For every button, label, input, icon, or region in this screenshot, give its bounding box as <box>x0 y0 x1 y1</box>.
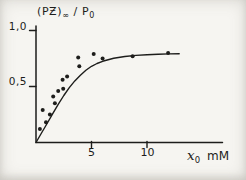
data-point <box>101 57 105 61</box>
axes <box>36 26 222 142</box>
data-point <box>44 120 48 124</box>
x-tick-label-10: 10 <box>139 146 156 159</box>
data-point <box>77 64 81 68</box>
data-point <box>56 89 60 93</box>
title-ratio: / P <box>69 5 89 18</box>
data-point <box>61 78 65 82</box>
data-point <box>92 52 96 56</box>
data-point <box>65 74 69 78</box>
y-axis-title: (PƵ)∞ / P0 <box>37 5 95 20</box>
data-point <box>61 87 65 91</box>
fit-curve <box>36 54 179 143</box>
y-tick-label-1-0: 1,0 <box>3 20 27 32</box>
data-point <box>51 95 55 99</box>
data-point <box>41 108 45 112</box>
data-point <box>48 113 52 117</box>
x-symbol-subscript: 0 <box>195 155 200 165</box>
x-symbol: x <box>187 147 195 163</box>
y-tick-label-0-5: 0,5 <box>3 75 27 87</box>
x-axis-label: x0mM <box>187 147 229 165</box>
data-point <box>76 55 80 59</box>
data-point <box>38 127 42 131</box>
data-point <box>53 101 57 105</box>
data-point <box>131 54 135 58</box>
saturation-curve-figure: (PƵ)∞ / P0 1,0 0,5 5 10 x0mM <box>0 0 246 180</box>
x-tick-label-5: 5 <box>84 146 99 159</box>
x-axis-unit: mM <box>207 149 229 163</box>
data-point <box>166 51 170 55</box>
title-p-subscript: 0 <box>89 11 95 20</box>
title-group: (PƵ) <box>37 5 62 18</box>
